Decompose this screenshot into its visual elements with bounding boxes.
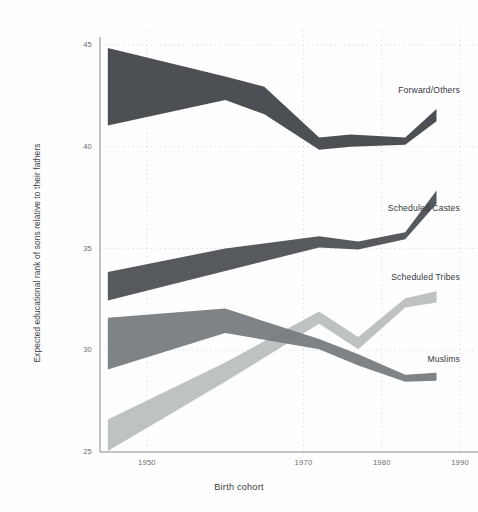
series-label-scheduled-castes: Scheduled Castes <box>388 203 460 213</box>
x-axis-title: Birth cohort <box>0 482 478 492</box>
x-tick-label: 1950 <box>127 458 167 467</box>
chart-figure: Expected educational rank of sons relati… <box>0 0 478 512</box>
y-tick-label: 40 <box>70 142 92 151</box>
series-label-scheduled-tribes: Scheduled Tribes <box>391 272 460 282</box>
series-label-forward-others: Forward/Others <box>398 85 460 95</box>
y-tick-label: 25 <box>70 447 92 456</box>
series-label-muslims: Muslims <box>427 354 460 364</box>
series-band-forward-others <box>108 48 437 150</box>
y-tick-label: 45 <box>70 40 92 49</box>
y-tick-label: 30 <box>70 345 92 354</box>
x-tick-label: 1980 <box>362 458 402 467</box>
chart-plot-area <box>0 0 478 512</box>
y-tick-label: 35 <box>70 244 92 253</box>
x-tick-label: 1970 <box>283 458 323 467</box>
x-tick-label: 1990 <box>440 458 478 467</box>
y-axis-title: Expected educational rank of sons relati… <box>32 113 42 393</box>
